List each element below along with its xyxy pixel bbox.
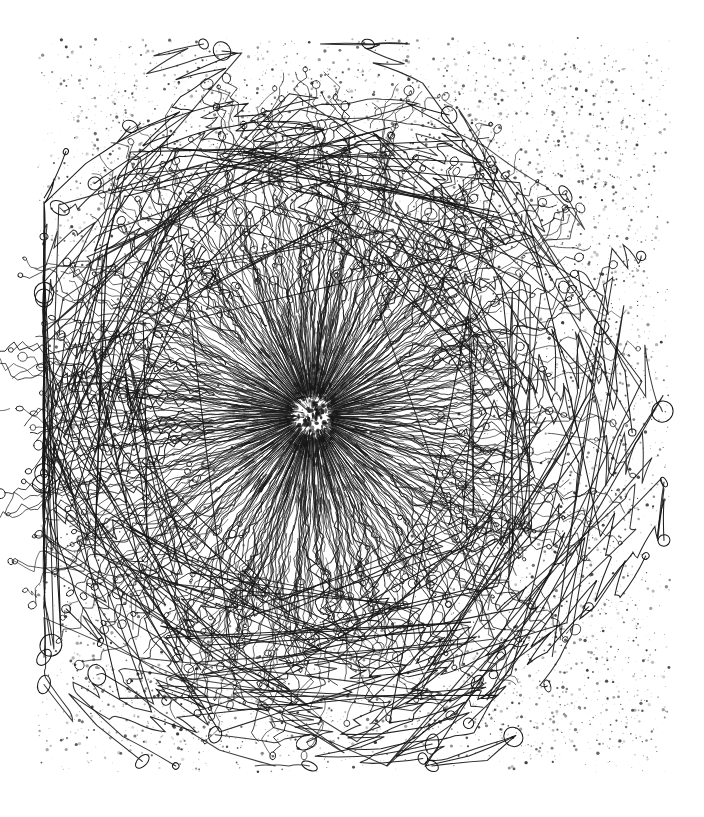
core-svg bbox=[0, 0, 704, 817]
organism-core-layer bbox=[0, 0, 704, 817]
illustration-plate bbox=[0, 0, 704, 817]
dense-core-tufts bbox=[217, 304, 404, 525]
